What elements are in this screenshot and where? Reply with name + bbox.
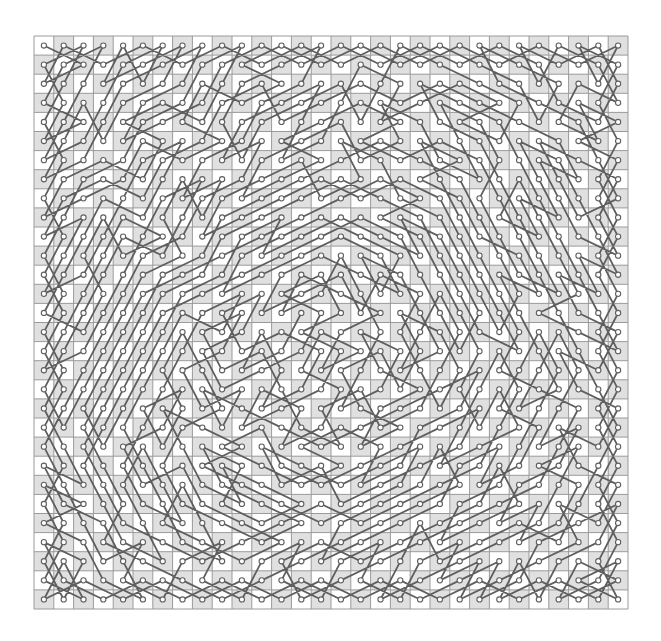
tour-node (477, 196, 482, 201)
tour-node (378, 43, 383, 48)
tour-node (101, 597, 106, 602)
tour-node (121, 387, 126, 392)
tour-node (160, 43, 165, 48)
tour-node (477, 43, 482, 48)
tour-node (338, 234, 343, 239)
tour-node (279, 482, 284, 487)
tour-node (497, 310, 502, 315)
tour-node (61, 43, 66, 48)
tour-node (556, 463, 561, 468)
tour-node (576, 425, 581, 430)
tour-node (121, 444, 126, 449)
tour-node (457, 215, 462, 220)
tour-node (457, 368, 462, 373)
tour-node (140, 368, 145, 373)
tour-node (517, 406, 522, 411)
tour-node (200, 329, 205, 334)
tour-node (358, 444, 363, 449)
tour-node (180, 43, 185, 48)
tour-node (279, 540, 284, 545)
tour-node (378, 520, 383, 525)
tour-node (140, 43, 145, 48)
tour-node (596, 138, 601, 143)
tour-node (41, 158, 46, 163)
tour-node (418, 329, 423, 334)
tour-node (121, 119, 126, 124)
tour-node (279, 559, 284, 564)
tour-node (121, 138, 126, 143)
tour-node (121, 520, 126, 525)
tour-node (180, 291, 185, 296)
tour-node (536, 368, 541, 373)
tour-node (239, 578, 244, 583)
tour-node (160, 119, 165, 124)
tour-node (596, 463, 601, 468)
tour-node (220, 540, 225, 545)
tour-node (576, 349, 581, 354)
tour-node (497, 234, 502, 239)
tour-node (239, 81, 244, 86)
tour-node (101, 329, 106, 334)
tour-node (61, 540, 66, 545)
tour-node (418, 43, 423, 48)
tour-node (457, 43, 462, 48)
tour-node (140, 215, 145, 220)
tour-node (61, 463, 66, 468)
tour-node (338, 501, 343, 506)
tour-node (279, 138, 284, 143)
tour-node (220, 177, 225, 182)
tour-node (101, 310, 106, 315)
tour-node (457, 177, 462, 182)
tour-node (457, 559, 462, 564)
tour-node (398, 329, 403, 334)
tour-node (180, 540, 185, 545)
tour-node (556, 425, 561, 430)
tour-node (556, 138, 561, 143)
tour-node (477, 444, 482, 449)
tour-node (239, 234, 244, 239)
tour-node (121, 349, 126, 354)
tour-node (41, 138, 46, 143)
tour-node (259, 444, 264, 449)
tour-node (279, 196, 284, 201)
tour-node (576, 215, 581, 220)
tour-node (576, 253, 581, 258)
tour-node (497, 368, 502, 373)
tour-node (259, 349, 264, 354)
tour-node (358, 501, 363, 506)
tour-node (319, 597, 324, 602)
tour-node (140, 406, 145, 411)
tour-node (616, 272, 621, 277)
tour-node (437, 253, 442, 258)
tour-node (180, 368, 185, 373)
tour-node (101, 253, 106, 258)
tour-node (338, 158, 343, 163)
tour-node (398, 520, 403, 525)
tour-node (536, 234, 541, 239)
tour-node (398, 291, 403, 296)
tour-node (121, 559, 126, 564)
tour-node (200, 119, 205, 124)
tour-node (457, 253, 462, 258)
tour-node (477, 540, 482, 545)
tour-node (517, 215, 522, 220)
tour-node (477, 482, 482, 487)
tour-node (101, 119, 106, 124)
tour-node (556, 540, 561, 545)
tour-node (200, 501, 205, 506)
tour-node (596, 272, 601, 277)
tour-node (200, 81, 205, 86)
tour-node (457, 387, 462, 392)
tour-node (398, 119, 403, 124)
tour-node (279, 234, 284, 239)
tour-node (556, 387, 561, 392)
tour-node (220, 234, 225, 239)
tour-node (140, 540, 145, 545)
tour-node (576, 597, 581, 602)
tour-node (338, 540, 343, 545)
tour-node (556, 272, 561, 277)
tour-node (497, 559, 502, 564)
tour-node (101, 158, 106, 163)
tour-node (398, 578, 403, 583)
tour-node (41, 425, 46, 430)
